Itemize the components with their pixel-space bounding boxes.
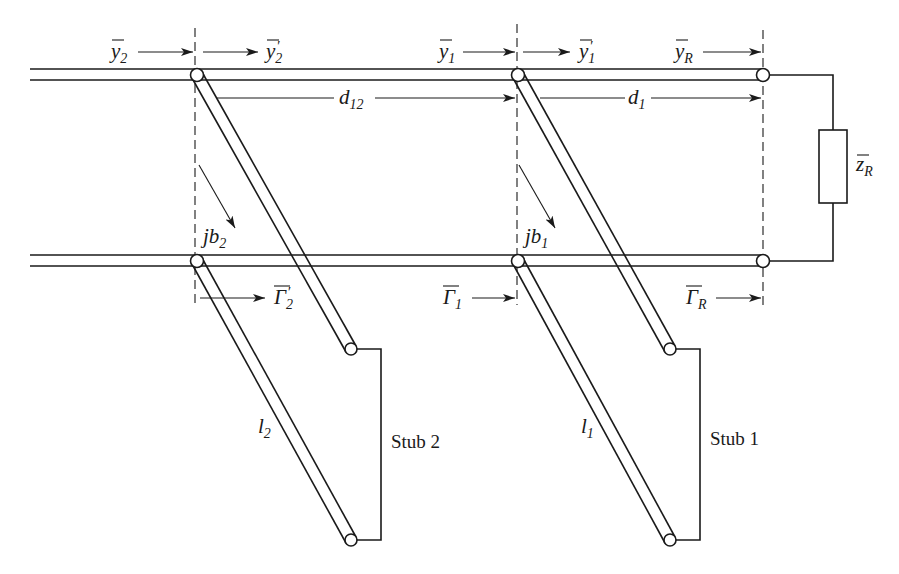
svg-text:Γ2′: Γ2′ [273,284,293,312]
main-line-top-conductor [30,69,763,80]
label-l1: l1 [581,414,594,441]
label-y2: y2 [109,39,127,66]
junction-node-load-bottom [757,255,770,268]
svg-text:y2: y2 [109,39,127,66]
junction-node-load-top [757,69,770,82]
svg-text:ΓR: ΓR [685,285,707,312]
arrow-jb1 [519,165,555,228]
label-gamma2-prime: Γ2′ [273,284,293,312]
label-zR: zR [855,152,873,179]
label-stub2: Stub 2 [391,431,440,452]
junction-node-stub2-bottom [191,255,204,268]
label-y2-prime: y2′ [264,38,282,66]
junction-node-stub2-top [191,69,204,82]
svg-text:Γ1: Γ1 [442,285,462,312]
svg-text:y2′: y2′ [264,38,282,66]
junction-node-stub1-bottom [512,255,525,268]
svg-text:y1′: y1′ [577,38,595,66]
junction-node-stub1-top [512,69,525,82]
svg-text:zR: zR [855,152,873,179]
label-l2: l2 [258,414,271,441]
label-jb2: jb2 [200,224,226,251]
label-stub1: Stub 1 [710,428,759,449]
label-d12: d12 [339,85,364,112]
arrow-jb2 [199,165,235,228]
label-yR: yR [673,39,693,66]
label-y1: y1 [437,39,455,66]
label-jb1: jb1 [522,224,548,251]
main-line-bottom-conductor [30,255,763,266]
label-d1: d1 [628,85,646,112]
svg-text:yR: yR [673,39,693,66]
label-gamma1: Γ1 [442,285,462,312]
load-impedance [769,75,847,261]
svg-text:y1: y1 [437,39,455,66]
label-gammaR: ΓR [685,285,707,312]
label-y1-prime: y1′ [577,38,595,66]
stub-1 [513,72,700,546]
double-stub-diagram: y2 y2′ y1 y1′ yR d12 d1 zR jb2 jb1 Γ2′ Γ… [0,0,899,574]
